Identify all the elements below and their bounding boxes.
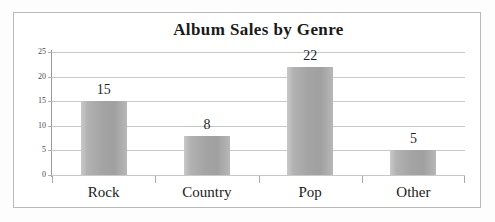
category-label-country: Country xyxy=(155,184,258,201)
bar-value-label-rock: 15 xyxy=(74,83,134,97)
chart-figure: Album Sales by Genre 0510152025 158225 R… xyxy=(0,0,495,222)
category-label-pop: Pop xyxy=(259,184,362,201)
bar-value-label-country: 8 xyxy=(177,118,237,132)
y-axis-tick-label: 25 xyxy=(38,48,46,56)
tick-mark xyxy=(48,101,52,102)
y-axis-tick-label: 20 xyxy=(38,73,46,81)
category-separator-tick xyxy=(464,176,465,183)
gridline xyxy=(52,52,465,53)
tick-mark xyxy=(48,52,52,53)
category-label-rock: Rock xyxy=(52,184,155,201)
y-axis-line xyxy=(51,50,52,177)
bar-country xyxy=(184,136,230,175)
tick-mark xyxy=(48,77,52,78)
bar-value-label-pop: 22 xyxy=(280,49,340,63)
bar-value-label-other: 5 xyxy=(383,132,443,146)
bar-other xyxy=(390,150,436,175)
tick-mark xyxy=(48,126,52,127)
bar-rock xyxy=(81,101,127,175)
y-axis-tick-label: 0 xyxy=(42,171,46,179)
category-separator-tick xyxy=(155,176,156,183)
plot-area: 0510152025 158225 xyxy=(52,52,465,175)
y-axis-tick-label: 5 xyxy=(42,146,46,154)
category-label-other: Other xyxy=(362,184,465,201)
category-separator-tick xyxy=(362,176,363,183)
bar-pop xyxy=(287,67,333,175)
y-axis-tick-label: 10 xyxy=(38,122,46,130)
gridline xyxy=(52,77,465,78)
chart-title: Album Sales by Genre xyxy=(52,20,465,40)
category-separator-tick xyxy=(259,176,260,183)
category-separator-tick xyxy=(52,176,53,183)
x-axis-category-labels: RockCountryPopOther xyxy=(52,176,465,206)
tick-mark xyxy=(48,150,52,151)
y-axis-tick-label: 15 xyxy=(38,97,46,105)
